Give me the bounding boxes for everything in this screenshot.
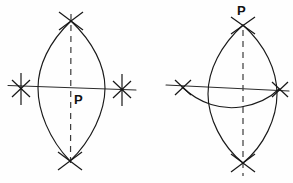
figure-background — [0, 0, 293, 183]
left-point-label: P — [74, 92, 83, 107]
geometric-construction-figure: P P — [0, 0, 293, 183]
right-point-label: P — [237, 3, 246, 18]
